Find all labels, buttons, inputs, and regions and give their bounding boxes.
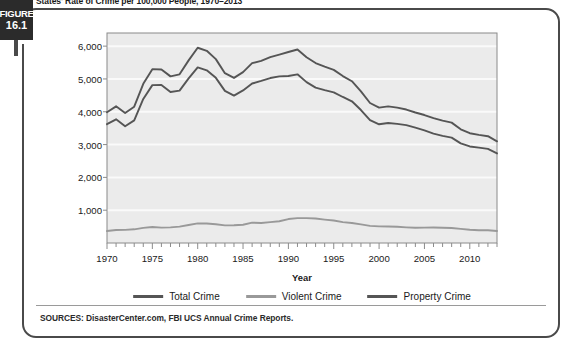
legend-item: Property Crime	[368, 291, 471, 302]
x-axis-label: 1970	[96, 253, 117, 264]
legend-item: Total Crime	[133, 291, 220, 302]
x-axis-label: 1985	[232, 253, 253, 264]
x-axis-label: 1995	[323, 253, 344, 264]
y-axis-label: 4,000	[78, 106, 102, 117]
y-axis-label: 5,000	[78, 73, 102, 84]
chart-area: 1,0002,0003,0004,0005,0006,000 197019751…	[0, 0, 567, 344]
figure-badge-stem	[14, 40, 18, 56]
x-axis-title: Year	[292, 272, 312, 283]
x-axis-label: 1980	[187, 253, 208, 264]
x-axis-label: 2010	[459, 253, 480, 264]
figure-badge-word: FIGURE	[0, 9, 34, 19]
chart-legend: Total CrimeViolent CrimeProperty Crime	[133, 291, 471, 302]
y-axis-tick-labels: 1,0002,0003,0004,0005,0006,000	[46, 0, 102, 344]
legend-label: Violent Crime	[282, 291, 342, 302]
source-note: SOURCES: DisasterCenter.com, FBI UCS Ann…	[40, 313, 293, 323]
figure-title: States' Rate of Crime per 100,000 People…	[36, 0, 242, 6]
y-axis-label: 1,000	[78, 205, 102, 216]
source-divider	[36, 305, 546, 306]
legend-swatch-icon	[368, 295, 398, 297]
plot-background	[107, 33, 497, 243]
figure-root: FIGURE 16.1 States' Rate of Crime per 10…	[0, 0, 567, 344]
x-axis-label: 1990	[278, 253, 299, 264]
legend-label: Property Crime	[404, 291, 471, 302]
x-axis-label: 1975	[142, 253, 163, 264]
x-axis-label: 2005	[414, 253, 435, 264]
legend-swatch-icon	[133, 295, 163, 297]
y-axis-label: 3,000	[78, 139, 102, 150]
legend-item: Violent Crime	[246, 291, 342, 302]
figure-number-badge: FIGURE 16.1	[0, 0, 33, 40]
figure-badge-number: 16.1	[6, 20, 27, 31]
y-axis-label: 6,000	[78, 41, 102, 52]
x-axis-label: 2000	[368, 253, 389, 264]
legend-label: Total Crime	[169, 291, 220, 302]
legend-swatch-icon	[246, 295, 276, 297]
y-axis-label: 2,000	[78, 172, 102, 183]
